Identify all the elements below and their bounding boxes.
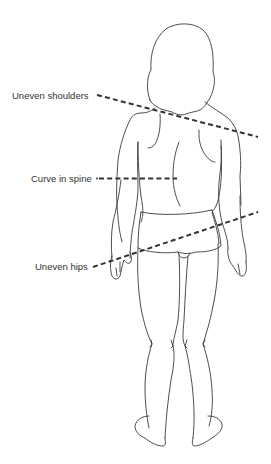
right-arm-inner xyxy=(219,140,228,248)
right-arm-outline xyxy=(240,196,246,262)
left-finger-line xyxy=(116,268,117,276)
left-leg-outer xyxy=(138,248,152,428)
spine-leader-dot xyxy=(96,178,98,180)
label-uneven-shoulders: Uneven shoulders xyxy=(12,91,89,101)
left-arm-inner xyxy=(130,142,138,258)
right-hand-outline xyxy=(228,248,247,276)
scoliosis-diagram: Uneven shoulders Curve in spine Uneven h… xyxy=(0,0,271,464)
left-torso-outline xyxy=(138,142,143,222)
right-torso-outline xyxy=(212,146,222,244)
left-shoulder-blade xyxy=(148,114,160,148)
right-shoulder-outline xyxy=(205,102,241,205)
body-illustration xyxy=(0,0,271,464)
right-leg-outer xyxy=(203,244,218,426)
left-inner-knee-mark xyxy=(171,340,173,348)
left-foot-outline xyxy=(135,416,165,446)
left-arm-outline xyxy=(111,180,121,258)
right-finger-line xyxy=(238,264,240,274)
uneven-shoulders-indicator-line xyxy=(97,95,258,137)
head-outline xyxy=(147,24,214,115)
spine-curve xyxy=(173,142,180,206)
right-foot-outline xyxy=(192,416,222,446)
right-inner-knee-mark xyxy=(185,340,187,348)
right-leg-inner xyxy=(183,256,194,438)
left-shoulder-outline xyxy=(117,108,155,242)
uneven-hips-indicator-line xyxy=(93,212,258,267)
label-curve-in-spine: Curve in spine xyxy=(31,174,92,184)
left-leg-inner xyxy=(165,254,180,438)
label-uneven-hips: Uneven hips xyxy=(35,262,88,272)
right-shoulder-blade xyxy=(199,130,215,162)
waistband xyxy=(141,210,212,214)
